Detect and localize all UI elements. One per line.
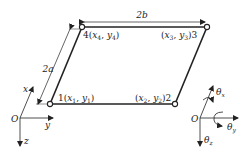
x-axis-label: x — [23, 84, 28, 94]
node-1-label: 1(x1, y1) — [58, 93, 94, 104]
node-2-label: (x2, y2)2 — [135, 93, 171, 104]
rotation-origin-label: O — [191, 114, 199, 124]
node-2-marker — [172, 101, 177, 106]
theta-x-axis — [200, 86, 213, 118]
z-axis-label: z — [23, 136, 29, 146]
dimension-2b: 2b — [84, 10, 205, 22]
global-axes: O x y z — [11, 84, 53, 146]
y-axis-label: y — [44, 120, 51, 130]
node-4-marker — [79, 24, 84, 29]
node-4-label: 4(x4, y4) — [83, 30, 119, 41]
theta-x-label: θx — [216, 87, 225, 98]
theta-z-label: θz — [204, 135, 213, 146]
node-3-marker — [204, 24, 209, 29]
theta-y-label: θy — [227, 122, 236, 134]
rotation-axes: O θx θy θz — [191, 86, 238, 146]
origin-label: O — [11, 114, 19, 124]
dimension-2a-label: 2a — [41, 64, 53, 74]
element-diagram: 2b 2a 1(x1, y1) (x2, y2)2 (x3, y3)3 4(x4… — [0, 0, 247, 157]
node-3-label: (x3, y3)3 — [161, 30, 198, 41]
theta-y-rotation-icon — [214, 112, 223, 126]
node-1-marker — [47, 101, 52, 106]
dimension-2b-label: 2b — [135, 10, 148, 20]
